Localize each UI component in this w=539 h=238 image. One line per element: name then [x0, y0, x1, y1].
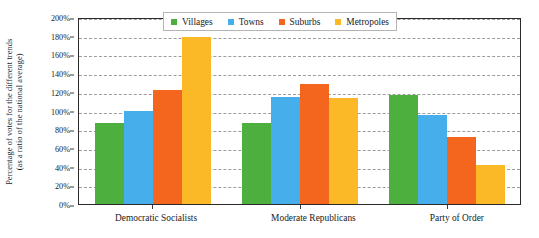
bar-suburbs[interactable]	[153, 90, 182, 204]
y-axis-tick-label: 80%	[55, 126, 70, 135]
y-axis-tick-label: 40%	[55, 163, 70, 172]
y-axis-tick-label: 180%	[51, 32, 70, 41]
bar-groups	[79, 19, 520, 204]
bar-towns[interactable]	[418, 115, 447, 204]
y-axis-title-line1: Percentage of votes for the different tr…	[5, 39, 15, 185]
y-axis-tick-label: 0%	[59, 201, 70, 210]
x-axis-tick-label: Party of Order	[430, 207, 484, 223]
y-axis-title: Percentage of votes for the different tr…	[0, 0, 30, 224]
y-axis-tick-mark	[70, 18, 74, 19]
y-axis-tick-label: 100%	[51, 107, 70, 116]
y-axis-tick-mark	[70, 112, 74, 113]
y-axis-tick-mark	[70, 186, 74, 187]
bar-villages[interactable]	[95, 123, 124, 204]
legend-item[interactable]: Suburbs	[279, 17, 321, 27]
y-axis-tick-labels: 0%20%40%60%80%100%120%140%160%180%200%	[28, 18, 74, 205]
legend-swatch-icon	[228, 19, 234, 25]
y-axis-tick-mark	[70, 37, 74, 38]
bar-group	[389, 19, 505, 204]
legend-label: Towns	[239, 17, 264, 27]
chart-legend: VillagesTownsSuburbsMetropoles	[163, 12, 397, 31]
bar-towns[interactable]	[124, 111, 153, 205]
y-axis-tick-label: 120%	[51, 88, 70, 97]
y-axis-tick-mark	[70, 74, 74, 75]
x-axis-tick-labels: Democratic SocialistsModerate Republican…	[78, 207, 521, 229]
legend-swatch-icon	[279, 19, 285, 25]
legend-label: Metropoles	[346, 17, 389, 27]
legend-label: Villages	[182, 17, 213, 27]
plot-area	[78, 18, 521, 205]
y-axis-tick-mark	[70, 130, 74, 131]
bar-group	[95, 19, 211, 204]
bar-towns[interactable]	[271, 97, 300, 204]
legend-item[interactable]: Towns	[228, 17, 264, 27]
legend-item[interactable]: Metropoles	[335, 17, 389, 27]
bar-metropoles[interactable]	[182, 37, 211, 204]
bar-villages[interactable]	[389, 95, 418, 204]
y-axis-tick-mark	[70, 55, 74, 56]
y-axis-tick-mark	[70, 168, 74, 169]
legend-swatch-icon	[171, 19, 177, 25]
y-axis-title-line2: (as a ratio of the national average)	[15, 39, 25, 185]
y-axis-tick-label: 160%	[51, 51, 70, 60]
legend-item[interactable]: Villages	[171, 17, 213, 27]
y-axis-tick-mark	[70, 93, 74, 94]
bar-suburbs[interactable]	[300, 84, 329, 204]
y-axis-tick-mark	[70, 205, 74, 206]
legend-label: Suburbs	[290, 17, 321, 27]
y-axis-tick-label: 60%	[55, 144, 70, 153]
bar-metropoles[interactable]	[476, 165, 505, 204]
y-axis-tick-label: 140%	[51, 70, 70, 79]
x-axis-tick-label: Democratic Socialists	[115, 207, 197, 223]
bar-chart: Percentage of votes for the different tr…	[0, 0, 539, 238]
y-axis-tick-mark	[70, 149, 74, 150]
x-axis-tick-label: Moderate Republicans	[271, 207, 356, 223]
y-axis-tick-label: 200%	[51, 14, 70, 23]
bar-villages[interactable]	[242, 123, 271, 204]
bar-group	[242, 19, 358, 204]
bar-suburbs[interactable]	[447, 137, 476, 204]
legend-swatch-icon	[335, 19, 341, 25]
bar-metropoles[interactable]	[329, 98, 358, 204]
y-axis-tick-label: 20%	[55, 182, 70, 191]
